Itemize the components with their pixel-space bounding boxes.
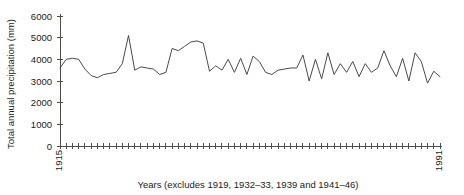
chart-canvas: 0100020003000400050006000 Total annual p… [0,0,464,195]
precipitation-line-chart: 0100020003000400050006000 Total annual p… [0,0,464,195]
x-axis [60,143,442,149]
y-axis-tick-label: 2000 [31,97,52,108]
y-axis: 0100020003000400050006000 [31,11,63,152]
x-axis-end-tick-label: 1991 [433,150,444,171]
precipitation-series-line [60,36,440,84]
y-axis-tick-label: 4000 [31,54,52,65]
x-axis-start-tick-label: 1915 [53,150,64,171]
y-axis-tick-label: 0 [47,141,52,152]
x-axis-title: Years (excludes 1919, 1932–33, 1939 and … [138,179,359,190]
y-axis-title: Total annual precipitation (mm) [5,19,16,149]
y-axis-tick-label: 5000 [31,32,52,43]
y-axis-tick-label: 1000 [31,119,52,130]
y-axis-tick-label: 3000 [31,76,52,87]
y-axis-tick-label: 6000 [31,11,52,22]
